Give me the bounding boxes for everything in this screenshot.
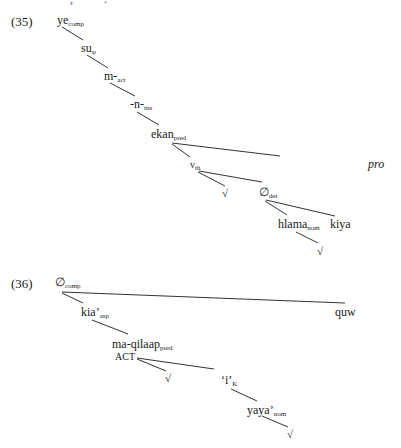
node-sub: nom xyxy=(307,224,319,232)
node-sub: pred xyxy=(160,344,172,352)
root-icon: √ xyxy=(222,187,228,199)
node-base: yaya’ xyxy=(247,403,274,417)
node-m-act: m-act xyxy=(104,70,126,84)
node-base: m- xyxy=(104,69,117,83)
node-base: pro xyxy=(368,157,384,171)
node-base: ye xyxy=(57,13,68,27)
null-icon: ∅ xyxy=(55,275,65,289)
node-sub: asp xyxy=(100,312,109,320)
node-sub: comp xyxy=(68,20,84,28)
root-icon: √ xyxy=(287,428,293,440)
node-base: ‘i’ xyxy=(221,373,232,387)
node-ekan-pred: ekanpred xyxy=(151,128,186,142)
node-sub: act xyxy=(117,76,125,84)
node-base: ma-qilaap xyxy=(112,337,160,351)
node-sub: comp xyxy=(65,282,81,290)
node-v-th: vth xyxy=(190,160,200,172)
example-number-36: (36) xyxy=(11,276,33,292)
node-i-k: ‘i’K xyxy=(221,374,237,388)
node-base: kiya xyxy=(330,217,351,231)
node-root-2: √ xyxy=(317,246,323,257)
node-ma-qilaap-pred: ma-qilaappred xyxy=(112,338,172,352)
node-yaya-nom: yaya’nom xyxy=(247,404,286,418)
node-base: -n- xyxy=(130,97,144,111)
root-icon: √ xyxy=(165,372,171,384)
node-null-comp: ∅comp xyxy=(55,276,81,290)
node-sub: nom xyxy=(274,410,286,418)
node-base: ekan xyxy=(151,127,174,141)
node-null-det: ∅det xyxy=(259,186,278,200)
node-sub: φ xyxy=(92,48,96,56)
node-sub: ins xyxy=(144,104,152,112)
node-su-phi: suφ xyxy=(81,42,96,56)
node-sub: pred xyxy=(174,134,186,142)
node-base: ACT xyxy=(115,351,135,362)
node-base: hlama xyxy=(278,217,307,231)
node-root-1: √ xyxy=(222,188,228,199)
node-root-2: √ xyxy=(287,429,293,440)
node-quw: quw xyxy=(335,306,356,318)
node-pro: pro xyxy=(368,158,384,170)
node-kiya: kiya xyxy=(330,218,351,230)
node-root-1: √ xyxy=(165,373,171,384)
node-sub: K xyxy=(232,380,237,388)
node-ye-comp: yecomp xyxy=(57,14,84,28)
node-n-ins: -n-ins xyxy=(130,98,152,112)
node-base: quw xyxy=(335,305,356,319)
node-hlama-nom: hlamanom xyxy=(278,218,320,232)
node-act-label: ACT xyxy=(115,352,135,362)
node-kia-asp: kia’asp xyxy=(81,306,109,320)
node-base: su xyxy=(81,41,92,55)
null-icon: ∅ xyxy=(259,185,269,199)
root-icon: √ xyxy=(317,245,323,257)
node-base: kia’ xyxy=(81,305,100,319)
node-sub: th xyxy=(195,164,200,172)
example-number-35: (35) xyxy=(11,14,33,30)
node-sub: det xyxy=(269,192,278,200)
